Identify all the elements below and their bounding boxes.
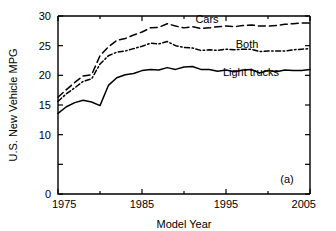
y-axis-title: U.S. New Vehicle MPG [7, 48, 19, 161]
y-axis-tick-labels: 01015202530 [39, 10, 51, 200]
axis-frame [58, 16, 310, 194]
x-axis-ticks [58, 16, 310, 194]
panel-label: (a) [280, 173, 293, 185]
series-label-cars: Cars [195, 13, 219, 25]
x-tick-label-1985: 1985 [130, 198, 154, 210]
series-label-both: Both [236, 38, 259, 50]
figure-container: 01015202530 1975198519952005 Model Year … [0, 0, 336, 231]
y-tick-label-15: 15 [39, 99, 51, 111]
y-tick-label-20: 20 [39, 69, 51, 81]
y-axis-ticks [58, 16, 310, 194]
y-tick-label-30: 30 [39, 10, 51, 22]
x-tick-label-1995: 1995 [214, 198, 238, 210]
chart-axes [58, 16, 310, 194]
series-line-cars [58, 23, 310, 97]
y-tick-label-0: 0 [45, 188, 51, 200]
mpg-line-chart: 01015202530 1975198519952005 Model Year … [0, 0, 336, 231]
series-label-light-trucks: Light trucks [223, 66, 280, 78]
y-tick-label-10: 10 [39, 129, 51, 141]
x-axis-title: Model Year [156, 218, 211, 230]
x-tick-label-2005: 2005 [292, 198, 316, 210]
x-tick-label-1975: 1975 [52, 198, 76, 210]
y-tick-label-25: 25 [39, 40, 51, 52]
x-axis-tick-labels: 1975198519952005 [52, 198, 316, 210]
